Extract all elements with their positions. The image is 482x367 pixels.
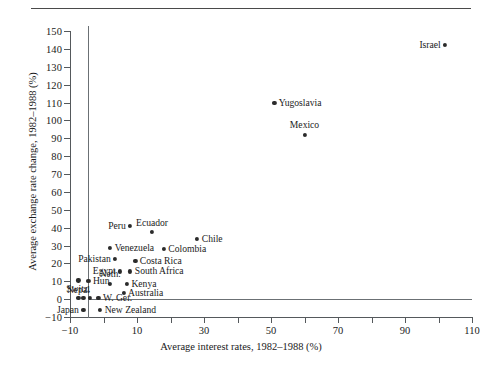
y-tick-label: 10 <box>51 276 62 287</box>
x-tick <box>405 317 406 323</box>
zero-horizontal-reference-line <box>88 299 472 300</box>
x-tick-label: −10 <box>62 325 78 336</box>
data-point-marker <box>76 278 80 282</box>
y-tick <box>64 138 70 139</box>
scatter-plot: −100102030405060708090100110120130140150… <box>0 0 482 367</box>
data-point-label: Colombia <box>168 244 206 254</box>
data-point-marker <box>195 237 199 241</box>
y-tick <box>64 210 70 211</box>
y-tick <box>64 49 70 50</box>
x-tick <box>238 317 239 323</box>
x-tick <box>338 317 339 323</box>
y-tick <box>64 281 70 282</box>
y-tick-label: 80 <box>51 151 62 162</box>
x-tick <box>271 317 272 323</box>
y-tick <box>64 246 70 247</box>
y-tick-label: 50 <box>51 204 62 215</box>
y-tick-label: 0 <box>57 294 62 305</box>
y-tick-label: 130 <box>46 61 62 72</box>
x-tick-label: 70 <box>333 325 344 336</box>
x-tick <box>472 317 473 323</box>
data-point-label: Japan <box>57 305 79 315</box>
data-point-label: Venezuela <box>115 243 154 253</box>
y-tick <box>64 31 70 32</box>
x-tick-label: 10 <box>132 325 143 336</box>
y-tick <box>64 85 70 86</box>
x-tick-label: 30 <box>199 325 210 336</box>
y-tick <box>64 156 70 157</box>
data-point-label: Ecuador <box>136 218 168 228</box>
data-point-marker <box>128 224 132 228</box>
data-point-label: Australia <box>128 288 163 298</box>
x-tick <box>305 317 306 323</box>
x-tick-label: 50 <box>266 325 277 336</box>
data-point-marker <box>150 230 154 234</box>
data-point-marker <box>443 43 447 47</box>
x-tick <box>104 317 105 323</box>
y-tick <box>64 120 70 121</box>
data-point-marker <box>98 308 102 312</box>
y-axis-title: Average exchange rate change, 1982–1988 … <box>27 27 38 317</box>
y-tick <box>64 67 70 68</box>
x-tick-label: 110 <box>464 325 479 336</box>
y-tick <box>64 174 70 175</box>
y-tick-label: 110 <box>46 97 62 108</box>
y-tick-label: 60 <box>51 186 62 197</box>
data-point-marker <box>76 296 80 300</box>
x-tick <box>439 317 440 323</box>
y-tick <box>64 228 70 229</box>
data-point-label: Switz. <box>66 284 90 294</box>
x-tick-label: 90 <box>400 325 411 336</box>
x-axis-title: Average interest rates, 1982–1988 (%) <box>0 341 482 352</box>
y-tick-label: 150 <box>46 26 62 37</box>
data-point-marker <box>272 100 276 104</box>
data-point-marker <box>108 246 112 250</box>
data-point-label: Peru <box>108 221 126 231</box>
y-tick-label: 30 <box>51 240 62 251</box>
data-point-label: Mexico <box>290 121 319 131</box>
x-tick <box>171 317 172 323</box>
y-tick <box>64 263 70 264</box>
data-point-label: Costa Rica <box>140 256 182 266</box>
y-tick-label: 20 <box>51 258 62 269</box>
data-point-label: South Africa <box>135 267 184 277</box>
data-point-label: Israel <box>419 41 440 51</box>
y-tick-label: 120 <box>46 79 62 90</box>
y-tick-label: 70 <box>51 169 62 180</box>
y-tick <box>64 299 70 300</box>
data-point-marker <box>125 282 129 286</box>
y-tick-label: 40 <box>51 222 62 233</box>
x-tick <box>372 317 373 323</box>
y-axis-line <box>70 31 71 318</box>
data-point-marker <box>133 259 137 263</box>
x-tick <box>204 317 205 323</box>
zero-vertical-reference-line <box>88 26 89 318</box>
data-point-label: Neth. <box>100 270 121 280</box>
x-tick <box>70 317 71 323</box>
y-tick <box>64 192 70 193</box>
y-tick-label: 140 <box>46 43 62 54</box>
data-point-marker <box>302 133 306 137</box>
data-point-marker <box>81 296 85 300</box>
data-point-label: W. Ger. <box>103 293 132 303</box>
data-point-marker <box>162 247 166 251</box>
data-point-marker <box>81 308 85 312</box>
y-tick <box>64 103 70 104</box>
figure-page: −100102030405060708090100110120130140150… <box>0 0 482 367</box>
data-point-label: New Zealand <box>105 305 156 315</box>
data-point-marker <box>128 269 132 273</box>
y-tick-label: 90 <box>51 133 62 144</box>
x-tick <box>137 317 138 323</box>
y-tick-label: 100 <box>46 115 62 126</box>
data-point-label: Pakistan <box>78 254 111 264</box>
data-point-label: Yugoslavia <box>279 98 322 108</box>
data-point-marker <box>113 257 117 261</box>
